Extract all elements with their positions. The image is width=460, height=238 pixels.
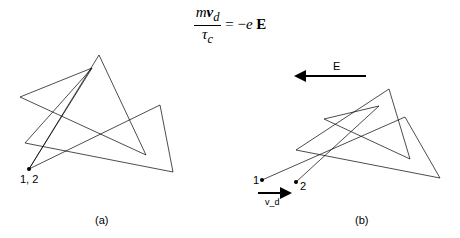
trajectory-diagram: [0, 0, 460, 238]
field-label: E: [333, 60, 340, 72]
path-a: [20, 55, 173, 172]
point-label-a: 1, 2: [20, 173, 38, 185]
caption-b: (b): [355, 214, 368, 226]
point2-label: 2: [300, 180, 306, 192]
path-b: [262, 89, 440, 182]
point1-label: 1: [253, 174, 259, 186]
caption-a: (a): [95, 214, 108, 226]
drift-label: v_d: [265, 197, 280, 207]
